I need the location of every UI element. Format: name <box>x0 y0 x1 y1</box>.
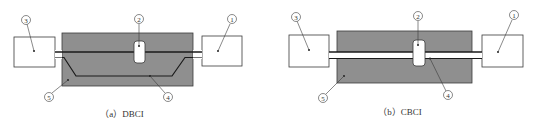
label-2-b: 2 <box>414 12 423 21</box>
svg-text:2: 2 <box>416 13 420 21</box>
svg-text:5: 5 <box>47 94 51 102</box>
svg-text:3: 3 <box>24 17 28 25</box>
label-4-a: 4 <box>164 93 173 102</box>
label-1-b: 1 <box>510 11 519 20</box>
box-1-b <box>482 35 523 67</box>
device-body-a <box>62 33 193 86</box>
box-1-a <box>202 36 242 66</box>
box-3-a <box>14 37 55 67</box>
panel-a-dbci: 3 2 1 5 4 （a）DBCI <box>14 15 242 120</box>
label-1-a: 1 <box>228 15 237 24</box>
svg-text:1: 1 <box>230 16 234 24</box>
channel-b <box>329 52 482 59</box>
diagram-canvas: 3 2 1 5 4 （a）DBCI <box>0 0 534 125</box>
label-5-b: 5 <box>319 94 328 103</box>
label-3-b: 3 <box>292 13 301 22</box>
element-2-a <box>134 41 145 63</box>
caption-b: （b）CBCI <box>378 107 422 117</box>
leader-5-b <box>326 76 344 94</box>
svg-text:2: 2 <box>137 16 141 24</box>
label-4-b: 4 <box>444 91 453 100</box>
caption-a: （a）DBCI <box>100 109 144 119</box>
svg-text:4: 4 <box>446 92 450 100</box>
svg-text:3: 3 <box>294 14 298 22</box>
svg-text:4: 4 <box>166 94 170 102</box>
label-2-a: 2 <box>135 15 144 24</box>
svg-text:1: 1 <box>512 12 516 20</box>
label-3-a: 3 <box>22 16 31 25</box>
label-5-a: 5 <box>45 93 54 102</box>
svg-text:5: 5 <box>321 95 325 103</box>
leader-5-a <box>52 80 68 93</box>
element-2-b <box>413 40 425 66</box>
panel-b-cbci: 3 2 1 5 4 （b）CBCI <box>289 11 523 118</box>
